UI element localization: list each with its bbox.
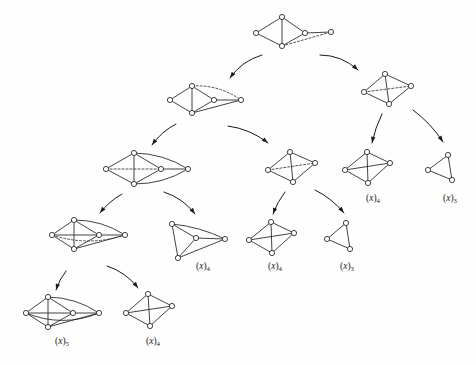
edge-solid [106, 153, 134, 169]
graph-vertex [71, 246, 76, 251]
graph-vertex [386, 101, 391, 106]
edge-solid [148, 294, 172, 306]
graph-label-level2-k4-graph: (x)4 [366, 193, 381, 204]
graph-root-graph [253, 14, 333, 48]
graph-vertex [158, 166, 163, 171]
edge-solid [385, 74, 411, 86]
edge-solid [448, 155, 452, 180]
edge-solid [170, 100, 192, 113]
arrow-root-to-right-shaft [320, 55, 358, 70]
graph-vertex [365, 180, 370, 185]
label-subscript: 5 [66, 340, 70, 347]
edge-solid [268, 152, 290, 170]
graph-vertex [49, 232, 54, 237]
graph-vertex [269, 250, 274, 255]
graph-vertex [382, 71, 387, 76]
arrow-r1-to-k4 [371, 114, 382, 143]
arrows-layer [56, 55, 443, 290]
graph-vertex [238, 97, 243, 102]
edge-solid [256, 17, 282, 33]
edge-solid [74, 235, 99, 249]
arrow-root-to-left-shaft [230, 55, 262, 78]
edge-solid [345, 170, 368, 183]
graph-vertex [324, 236, 329, 241]
graph-vertex [169, 303, 174, 308]
label-subscript: 4 [377, 197, 381, 204]
graph-vertex [408, 83, 413, 88]
graph-vertex [342, 167, 347, 172]
edge-solid [268, 170, 293, 182]
arrow-l1-to-m2-shaft [228, 126, 268, 143]
arrow-m2-to-k4-head [273, 207, 277, 214]
deletion-contraction-tree-svg: (x)4(x)3(x)4(x)4(x)3(x)5(x)4 [0, 0, 476, 365]
edge-solid [249, 240, 272, 253]
graph-level3-left-graph [49, 217, 127, 251]
edge-solid [106, 169, 134, 184]
graph-vertex [96, 232, 101, 237]
arrow-root-to-right-head [352, 64, 358, 70]
graph-vertex [175, 255, 180, 260]
graph-vertex [291, 230, 296, 235]
edge-solid [346, 223, 350, 249]
graph-level2-k4-graph [342, 149, 392, 185]
graph-vertex [131, 181, 136, 186]
edge-solid [172, 224, 178, 258]
graph-level2-left-graph [103, 150, 190, 186]
arrow-root-to-right [320, 55, 358, 70]
label-subscript: 4 [157, 340, 161, 347]
graph-vertex [185, 166, 190, 171]
graph-vertex [169, 221, 174, 226]
label-subscript: 4 [279, 265, 283, 272]
graph-vertex [103, 166, 108, 171]
label-subscript: 3 [454, 197, 458, 204]
graph-label-level3-triangle-graph: (x)3 [340, 261, 355, 272]
graph-vertex [425, 167, 430, 172]
edge-solid [192, 100, 214, 113]
edge-solid [364, 92, 389, 104]
arrow-l1-to-m2 [228, 126, 268, 143]
graph-label-bottom-left-graph: (x)5 [55, 336, 70, 347]
edge-solid [367, 152, 368, 183]
graph-level3-mid-k4-graph [169, 221, 227, 260]
arrow-l3-to-b1-head [56, 283, 60, 290]
graph-label-level3-k4-graph: (x)4 [268, 261, 283, 272]
graph-label-level2-triangle-graph: (x)3 [443, 193, 458, 204]
graph-level1-right-graph [361, 71, 413, 106]
graph-level3-triangle-graph [324, 220, 352, 251]
graphs-layer [23, 14, 454, 329]
graph-vertex [246, 237, 251, 242]
graph-vertex [145, 291, 150, 296]
graph-vertex [312, 160, 317, 165]
arrow-r1-to-tri-head [438, 136, 443, 142]
graph-vertex [131, 150, 136, 155]
edge-solid [196, 238, 225, 239]
graph-vertex [343, 220, 348, 225]
edge-solid [126, 313, 150, 326]
edge-arc-solid [26, 313, 99, 321]
edge-solid [26, 297, 48, 313]
graph-vertex [279, 43, 284, 48]
edge-solid [282, 17, 305, 33]
edge-solid [178, 238, 196, 258]
arrow-l1-to-l2 [152, 124, 176, 145]
arrow-r1-to-tri [413, 110, 443, 142]
graph-vertex [279, 14, 284, 19]
graph-vertex [45, 294, 50, 299]
graph-vertex [265, 167, 270, 172]
graph-label-level3-mid-k4-graph: (x)4 [196, 261, 211, 272]
graph-level2-triangle-graph [425, 152, 454, 182]
arrow-l2-to-m3 [164, 192, 195, 214]
edge-solid [327, 223, 346, 239]
edge-solid [305, 32, 331, 33]
arrow-root-to-left [230, 55, 262, 78]
arrow-m2-to-tri [315, 190, 344, 213]
edge-solid [290, 152, 315, 163]
graph-vertex [96, 310, 101, 315]
graph-level2-mid-graph [265, 149, 317, 184]
edge-solid [428, 155, 448, 170]
edge-solid [271, 222, 294, 233]
edge-solid [290, 152, 293, 182]
edge-solid [26, 313, 48, 327]
graph-vertex [290, 179, 295, 184]
graph-vertex [449, 177, 454, 182]
